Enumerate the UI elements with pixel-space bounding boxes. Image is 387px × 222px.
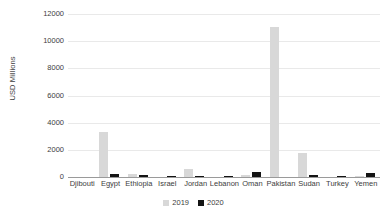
bar — [195, 176, 204, 177]
legend-swatch-icon — [198, 200, 204, 206]
x-axis-tick-labels: DjiboutiEgyptEthiopiaIsraelJordanLebanon… — [68, 179, 380, 193]
bar — [128, 174, 137, 177]
bar — [99, 132, 108, 177]
legend-label: 2020 — [207, 199, 224, 207]
bar — [241, 175, 250, 177]
x-axis-tick-label: Ethiopia — [125, 179, 153, 189]
bar — [110, 174, 119, 177]
bar-group — [323, 14, 351, 177]
bar-group — [295, 14, 323, 177]
x-axis-tick-label: Pakistan — [267, 179, 295, 189]
bar — [224, 176, 233, 177]
x-axis-tick-label: Yemen — [352, 179, 380, 189]
legend-label: 2019 — [172, 199, 189, 207]
bar-group — [210, 14, 238, 177]
bar — [167, 176, 176, 177]
bar — [355, 176, 364, 177]
bar-group — [181, 14, 209, 177]
bars-layer — [68, 14, 380, 177]
x-axis-tick-label: Lebanon — [210, 179, 238, 189]
x-axis-tick-label: Israel — [153, 179, 181, 189]
x-axis-tick-label: Sudan — [295, 179, 323, 189]
x-axis-tick-label: Egypt — [96, 179, 124, 189]
bar-chart: USD Millions 120001000080006000400020000… — [0, 0, 387, 222]
bar — [139, 175, 148, 177]
legend-swatch-icon — [163, 200, 169, 206]
y-axis-tick-label: 2000 — [6, 146, 64, 154]
x-axis-tick-label: Djibouti — [68, 179, 96, 189]
bar-group — [153, 14, 181, 177]
y-axis-tick-label: 10000 — [6, 37, 64, 45]
bar-group — [267, 14, 295, 177]
legend-entry[interactable]: 2020 — [198, 199, 224, 207]
x-axis-tick-label: Oman — [238, 179, 266, 189]
bar-group — [352, 14, 380, 177]
x-axis-tick-label: Jordan — [181, 179, 209, 189]
x-axis-tick-label: Turkey — [323, 179, 351, 189]
y-axis-tick-label: 8000 — [6, 64, 64, 72]
x-axis-line — [68, 177, 380, 178]
bar — [337, 176, 346, 177]
bar — [252, 172, 261, 177]
bar — [309, 175, 318, 177]
y-axis-tick-label: 4000 — [6, 119, 64, 127]
bar-group — [68, 14, 96, 177]
bar — [366, 173, 375, 177]
bar — [184, 169, 193, 177]
y-axis-tick-labels: 120001000080006000400020000 — [0, 0, 64, 222]
chart-legend: 20192020 — [0, 199, 387, 207]
bar-group — [125, 14, 153, 177]
y-axis-tick-label: 12000 — [6, 10, 64, 18]
legend-entry[interactable]: 2019 — [163, 199, 189, 207]
bar-group — [96, 14, 124, 177]
y-axis-tick-label: 6000 — [6, 92, 64, 100]
bar — [298, 153, 307, 177]
y-axis-tick-label: 0 — [6, 173, 64, 181]
bar — [270, 27, 279, 177]
bar-group — [238, 14, 266, 177]
